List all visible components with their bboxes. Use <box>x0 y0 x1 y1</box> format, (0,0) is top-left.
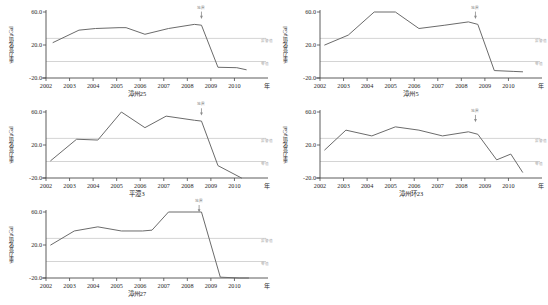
gridline-label-zero: 零值 <box>535 63 543 67</box>
y-axis-label: 重力变化值/μGal <box>283 114 288 176</box>
x-axis-unit-label: 年 <box>538 83 544 89</box>
gridline-label-alarm: 报警值 <box>535 40 547 44</box>
x-tick-label: 2004 <box>356 83 378 89</box>
x-tick-label: 2009 <box>474 83 496 89</box>
earthquake-annotation-label: 地震 <box>197 7 205 11</box>
x-tick-label: 2009 <box>474 183 496 189</box>
chart-title: 漳州27 <box>0 291 274 297</box>
chart-panel: 重力变化值/μGal60.020.0-20.020022003200420052… <box>274 0 548 100</box>
data-series-line <box>325 12 523 72</box>
x-tick-label: 2005 <box>380 183 402 189</box>
x-tick-label: 2004 <box>356 183 378 189</box>
x-axis-unit-label: 年 <box>264 83 270 89</box>
earthquake-arrow-head-icon <box>200 113 203 116</box>
gravity-change-figure: 重力变化值/μGal60.020.0-20.020022003200420052… <box>0 0 548 305</box>
chart-panel: 重力变化值/μGal60.020.0-20.020022003200420052… <box>0 100 274 200</box>
chart-panel: 重力变化值/μGal60.020.0-20.020022003200420052… <box>274 100 548 200</box>
x-tick-label: 2002 <box>35 283 57 289</box>
y-tick-label: -20.0 <box>18 275 42 281</box>
gridline-label-zero: 零值 <box>261 263 269 267</box>
x-tick-label: 2005 <box>106 83 128 89</box>
x-tick-label: 2006 <box>129 283 151 289</box>
x-tick-label: 2010 <box>497 83 519 89</box>
x-tick-label: 2005 <box>106 283 128 289</box>
gridline-label-alarm: 报警值 <box>261 40 273 44</box>
chart-panel: 重力变化值/μGal60.020.0-20.020022003200420052… <box>0 200 274 300</box>
earthquake-annotation-label: 地震 <box>197 103 205 107</box>
x-tick-label: 2006 <box>403 83 425 89</box>
y-axis-label: 重力变化值/μGal <box>9 214 14 276</box>
x-tick-label: 2003 <box>59 83 81 89</box>
y-axis-label: 重力变化值/μGal <box>9 114 14 176</box>
y-axis-label: 重力变化值/μGal <box>283 14 288 76</box>
x-tick-label: 2010 <box>223 83 245 89</box>
x-axis-unit-label: 年 <box>264 283 270 289</box>
x-tick-label: 2010 <box>497 183 519 189</box>
x-tick-label: 2007 <box>153 183 175 189</box>
y-tick-label: 20.0 <box>18 142 42 148</box>
x-tick-label: 2004 <box>82 183 104 189</box>
y-tick-label: 20.0 <box>18 42 42 48</box>
chart-title: 平潭3 <box>0 191 274 197</box>
y-tick-label: 60.0 <box>292 9 316 15</box>
earthquake-arrow-head-icon <box>200 16 203 19</box>
y-tick-label: -20.0 <box>292 75 316 81</box>
y-tick-label: 60.0 <box>18 9 42 15</box>
x-tick-label: 2010 <box>223 183 245 189</box>
gridline-label-zero: 零值 <box>535 163 543 167</box>
x-tick-label: 2002 <box>309 183 331 189</box>
x-tick-label: 2007 <box>427 183 449 189</box>
x-tick-label: 2009 <box>200 283 222 289</box>
gridline-label-alarm: 报警值 <box>535 140 547 144</box>
x-tick-label: 2002 <box>35 83 57 89</box>
chart-title: 漳州5 <box>274 91 548 97</box>
x-tick-label: 2008 <box>176 283 198 289</box>
x-tick-label: 2004 <box>82 283 104 289</box>
x-tick-label: 2008 <box>450 183 472 189</box>
y-axis-label: 重力变化值/μGal <box>9 14 14 76</box>
y-tick-label: -20.0 <box>292 175 316 181</box>
x-tick-label: 2009 <box>200 183 222 189</box>
x-tick-label: 2003 <box>333 183 355 189</box>
x-tick-label: 2009 <box>200 83 222 89</box>
earthquake-annotation-label: 地震 <box>471 7 479 11</box>
data-series-line <box>53 24 246 69</box>
y-tick-label: 20.0 <box>292 42 316 48</box>
x-tick-label: 2010 <box>223 283 245 289</box>
earthquake-annotation-label: 地震 <box>195 200 203 204</box>
x-tick-label: 2002 <box>35 183 57 189</box>
earthquake-annotation-label: 地震 <box>471 110 479 114</box>
chart-panel: 重力变化值/μGal60.020.0-20.020022003200420052… <box>0 0 274 100</box>
y-tick-label: -20.0 <box>18 175 42 181</box>
y-tick-label: 60.0 <box>18 109 42 115</box>
y-tick-label: 60.0 <box>18 209 42 215</box>
y-tick-label: -20.0 <box>18 75 42 81</box>
x-tick-label: 2007 <box>153 283 175 289</box>
data-series-line <box>51 112 242 178</box>
chart-title: 漳州环23 <box>274 191 548 197</box>
chart-title: 漳州25 <box>0 91 274 97</box>
x-tick-label: 2002 <box>309 83 331 89</box>
x-tick-label: 2007 <box>153 83 175 89</box>
earthquake-arrow-head-icon <box>474 119 477 122</box>
x-tick-label: 2005 <box>106 183 128 189</box>
data-series-line <box>51 212 249 278</box>
gridline-label-zero: 零值 <box>261 63 269 67</box>
gridline-label-zero: 零值 <box>261 163 269 167</box>
x-tick-label: 2003 <box>59 283 81 289</box>
x-tick-label: 2003 <box>333 83 355 89</box>
x-tick-label: 2006 <box>403 183 425 189</box>
gridline-label-alarm: 报警值 <box>261 240 273 244</box>
x-tick-label: 2006 <box>129 183 151 189</box>
x-axis-unit-label: 年 <box>264 183 270 189</box>
x-tick-label: 2005 <box>380 83 402 89</box>
x-tick-label: 2004 <box>82 83 104 89</box>
y-tick-label: 60.0 <box>292 109 316 115</box>
x-tick-label: 2007 <box>427 83 449 89</box>
x-tick-label: 2003 <box>59 183 81 189</box>
y-tick-label: 20.0 <box>18 242 42 248</box>
gridline-label-alarm: 报警值 <box>261 140 273 144</box>
x-tick-label: 2006 <box>129 83 151 89</box>
earthquake-arrow-head-icon <box>474 16 477 19</box>
data-series-line <box>325 127 523 172</box>
